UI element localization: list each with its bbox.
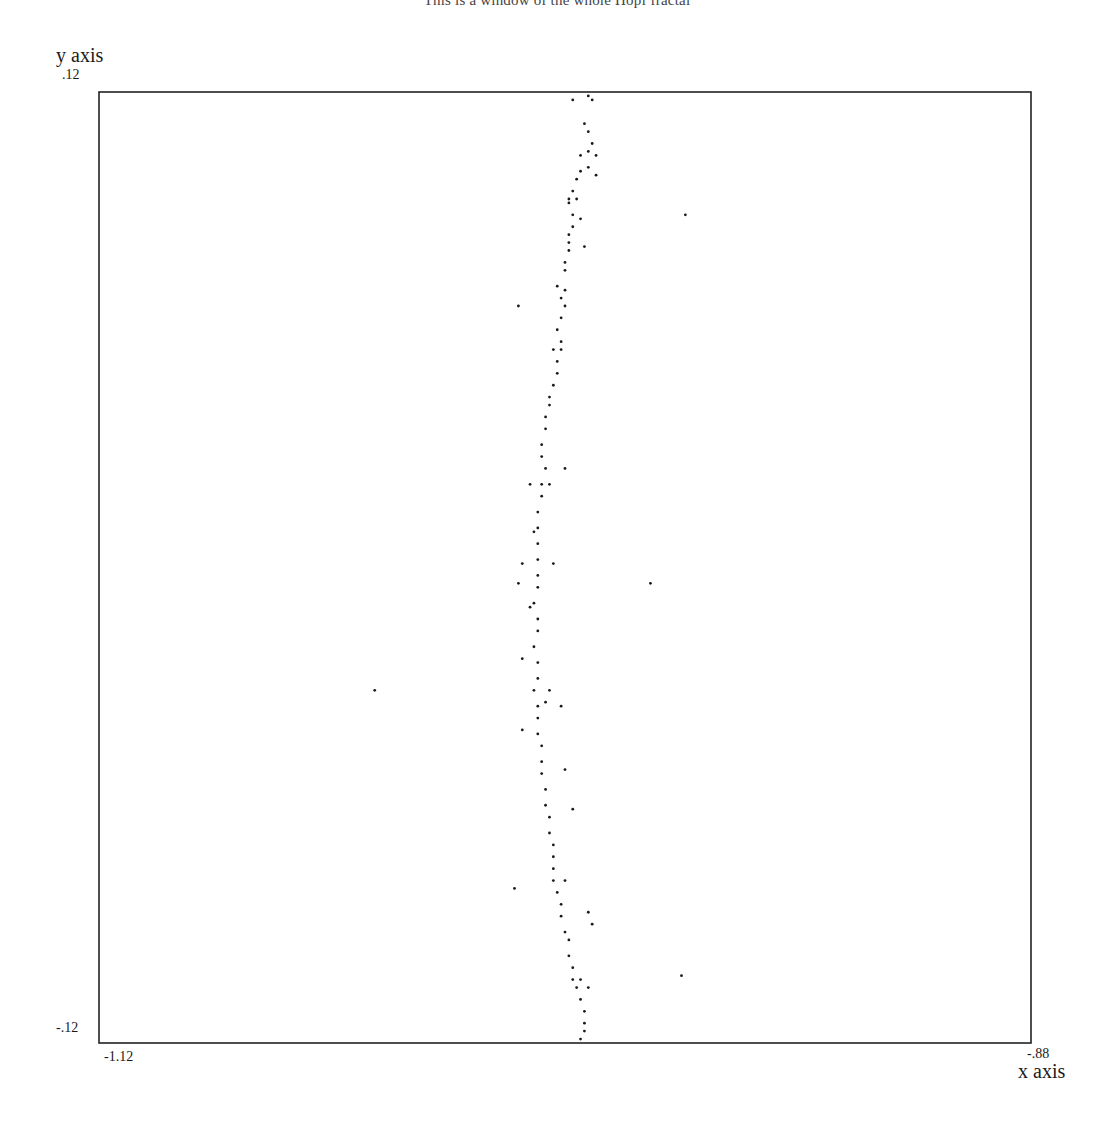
data-point — [571, 808, 574, 811]
data-point — [548, 689, 551, 692]
data-point — [575, 178, 578, 181]
data-point — [552, 843, 555, 846]
data-point — [560, 316, 563, 319]
data-point — [567, 241, 570, 244]
data-point — [536, 558, 539, 561]
data-point — [560, 915, 563, 918]
data-point — [583, 122, 586, 125]
data-point — [536, 705, 539, 708]
data-point — [560, 340, 563, 343]
data-point — [560, 348, 563, 351]
data-point — [556, 360, 559, 363]
data-point — [564, 305, 567, 308]
data-point — [587, 986, 590, 989]
data-point — [579, 1038, 582, 1041]
data-point — [513, 887, 516, 890]
data-point — [548, 404, 551, 407]
data-point — [540, 760, 543, 763]
data-point — [583, 1010, 586, 1013]
data-point — [587, 130, 590, 133]
data-point — [571, 99, 574, 102]
data-point — [560, 903, 563, 906]
data-point — [552, 348, 555, 351]
data-point — [560, 705, 563, 708]
data-point — [564, 467, 567, 470]
data-point — [529, 483, 532, 486]
data-point — [540, 443, 543, 446]
data-point — [536, 586, 539, 589]
data-point — [571, 966, 574, 969]
data-point — [556, 891, 559, 894]
data-point — [556, 328, 559, 331]
data-point — [540, 744, 543, 747]
data-point — [536, 526, 539, 529]
data-point — [571, 213, 574, 216]
data-point — [536, 574, 539, 577]
data-point — [587, 95, 590, 98]
data-point — [548, 816, 551, 819]
data-point — [533, 602, 536, 605]
data-point — [529, 606, 532, 609]
data-point — [548, 483, 551, 486]
data-point — [595, 154, 598, 157]
data-point — [567, 249, 570, 252]
data-point — [540, 495, 543, 498]
data-point — [552, 867, 555, 870]
data-point — [591, 142, 594, 145]
data-point — [579, 217, 582, 220]
data-point — [567, 202, 570, 205]
data-point — [521, 562, 524, 565]
data-point — [567, 233, 570, 236]
data-point — [564, 768, 567, 771]
data-point — [552, 384, 555, 387]
data-point — [583, 1030, 586, 1033]
data-point — [680, 974, 683, 977]
data-point — [544, 467, 547, 470]
data-point — [575, 986, 578, 989]
data-point — [544, 701, 547, 704]
data-point — [536, 717, 539, 720]
data-point — [564, 931, 567, 934]
data-point — [548, 396, 551, 399]
data-point — [540, 483, 543, 486]
data-point — [544, 416, 547, 419]
scatter-plot — [0, 0, 1114, 1143]
data-point — [571, 978, 574, 981]
data-point — [517, 582, 520, 585]
data-point — [567, 198, 570, 201]
data-point — [544, 427, 547, 430]
data-point — [540, 455, 543, 458]
data-point — [564, 261, 567, 264]
data-point — [536, 630, 539, 633]
data-point — [373, 689, 376, 692]
data-point — [583, 245, 586, 248]
data-point — [556, 285, 559, 288]
data-point — [587, 150, 590, 153]
data-point — [536, 618, 539, 621]
data-point — [536, 677, 539, 680]
data-point — [649, 582, 652, 585]
data-point — [591, 99, 594, 102]
data-point — [552, 879, 555, 882]
data-point — [587, 911, 590, 914]
data-point — [533, 645, 536, 648]
data-point — [536, 542, 539, 545]
data-point — [533, 530, 536, 533]
data-point — [564, 879, 567, 882]
data-point — [579, 154, 582, 157]
data-point — [567, 954, 570, 957]
data-point — [571, 225, 574, 228]
data-point — [583, 1022, 586, 1025]
data-point — [579, 998, 582, 1001]
data-point — [564, 269, 567, 272]
data-point — [567, 939, 570, 942]
data-point — [521, 729, 524, 732]
data-point — [540, 772, 543, 775]
data-point — [536, 661, 539, 664]
data-point — [552, 562, 555, 565]
data-point — [556, 372, 559, 375]
data-point — [548, 832, 551, 835]
data-point — [536, 733, 539, 736]
data-point — [587, 166, 590, 169]
data-point — [575, 198, 578, 201]
